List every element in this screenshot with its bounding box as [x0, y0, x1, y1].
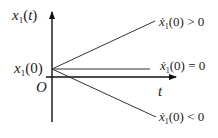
- line-negative: [52, 69, 156, 117]
- t-axis-label: t: [158, 83, 163, 99]
- label-positive: ẋ1(0) > 0: [158, 14, 204, 31]
- origin-label: O: [36, 79, 47, 95]
- label-negative: ẋ1(0) < 0: [158, 109, 204, 126]
- start-value-label: x1(0): [13, 60, 43, 78]
- diagram-canvas: x1(t) x1(0) O t ẋ1(0) > 0 ẋ1(0) = 0 ẋ1(0…: [0, 0, 218, 138]
- label-zero: ẋ1(0) = 0: [159, 58, 205, 75]
- y-axis-label: x1(t): [11, 7, 37, 25]
- line-positive: [52, 21, 155, 69]
